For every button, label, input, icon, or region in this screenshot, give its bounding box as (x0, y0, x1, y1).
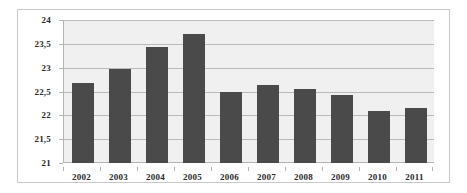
x-tick-mark-2008 (285, 167, 286, 171)
bar-2005 (183, 34, 205, 163)
bar-slot (101, 20, 138, 163)
x-tick-label-2009: 2009 (322, 173, 359, 182)
y-tick-label-22: 22 (42, 111, 51, 120)
bar-2008 (294, 89, 316, 163)
bar-slot (64, 20, 101, 163)
x-tick-mark-2006 (211, 167, 212, 171)
bar-slot (397, 20, 434, 163)
x-tick-mark-2003 (100, 167, 101, 171)
bar-2007 (257, 85, 279, 163)
bar-2010 (368, 111, 390, 163)
bar-2003 (109, 69, 131, 163)
y-tick-label-22-5: 22,5 (34, 88, 51, 97)
y-tick-label-21: 21 (42, 159, 51, 168)
y-tick-mark-23 (59, 68, 63, 69)
x-tick-label-2003: 2003 (100, 173, 137, 182)
y-tick-mark-22 (59, 115, 63, 116)
bar-2011 (405, 108, 427, 163)
bar-slot (138, 20, 175, 163)
bar-2009 (331, 95, 353, 163)
x-tick-label-2007: 2007 (248, 173, 285, 182)
x-tick-mark-2009 (322, 167, 323, 171)
y-tick-mark-24 (59, 20, 63, 21)
y-tick-label-23: 23 (42, 64, 51, 73)
bar-2006 (220, 92, 242, 164)
bar-slot (249, 20, 286, 163)
x-tick-label-2006: 2006 (211, 173, 248, 182)
bar-slot (323, 20, 360, 163)
x-tick-label-2008: 2008 (285, 173, 322, 182)
x-tick-mark-2005 (174, 167, 175, 171)
x-tick-label-2005: 2005 (174, 173, 211, 182)
y-axis: 2121,52222,52323,524 (18, 20, 59, 163)
bar-slot (212, 20, 249, 163)
y-tick-mark-21 (59, 163, 63, 164)
plot-area (63, 20, 434, 163)
y-tick-label-21-5: 21,5 (34, 135, 51, 144)
x-tick-mark-2004 (137, 167, 138, 171)
chart-frame: 2121,52222,52323,524 2002200320042005200… (17, 9, 450, 183)
x-axis: 2002200320042005200620072008200920102011 (63, 167, 434, 183)
y-tick-mark-23-5 (59, 44, 63, 45)
x-tick-label-2010: 2010 (359, 173, 396, 182)
x-tick-mark-end (432, 167, 433, 171)
x-tick-label-2004: 2004 (137, 173, 174, 182)
bar-2002 (72, 83, 94, 163)
y-tick-label-24: 24 (42, 16, 51, 25)
bar-slot (286, 20, 323, 163)
bar-2004 (146, 47, 168, 163)
y-tick-mark-22-5 (59, 92, 63, 93)
x-tick-mark-2010 (359, 167, 360, 171)
y-tick-label-23-5: 23,5 (34, 40, 51, 49)
x-tick-label-2011: 2011 (396, 173, 433, 182)
x-tick-mark-2011 (396, 167, 397, 171)
bar-slot (175, 20, 212, 163)
bar-slot (360, 20, 397, 163)
x-tick-mark-2002 (63, 167, 64, 171)
y-tick-mark-21-5 (59, 139, 63, 140)
x-tick-mark-2007 (248, 167, 249, 171)
x-tick-label-2002: 2002 (63, 173, 100, 182)
